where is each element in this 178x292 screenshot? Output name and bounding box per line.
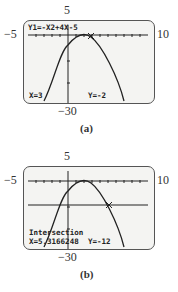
intersection-title: Intersection [29,228,83,237]
calculator-screen: Y1=-X2+4X-5 X=3 Y=-2 [23,20,155,104]
xmin-label: −5 [4,174,17,186]
ymin-label: −30 [58,105,77,117]
x-value-text: X=3 [29,91,43,100]
calculator-screen: Intersection X=5.3166248 Y=-12 [23,166,155,250]
panel-a: 5 −5 10 −30 (a) Y1=-X [0,0,178,146]
caption: (a) [80,122,93,134]
graph-plot: Intersection X=5.3166248 Y=-12 [24,167,154,249]
y-value-text: Y=-2 [88,91,106,100]
ymax-label: 5 [64,4,70,16]
caption: (b) [80,268,93,280]
xmax-label: 10 [157,174,169,186]
xmax-label: 10 [157,28,169,40]
x-value-text: X=5.3166248 [29,237,79,246]
equation-text: Y1=-X2+4X-5 [28,23,78,32]
ymax-label: 5 [64,150,70,162]
graph-plot: Y1=-X2+4X-5 X=3 Y=-2 [24,21,154,103]
parabola-curve [44,35,124,101]
y-value-text: Y=-12 [88,237,111,246]
ymin-label: −30 [58,251,77,263]
panel-b: 5 −5 10 −30 (b) Intersection [0,146,178,292]
xmin-label: −5 [4,28,17,40]
